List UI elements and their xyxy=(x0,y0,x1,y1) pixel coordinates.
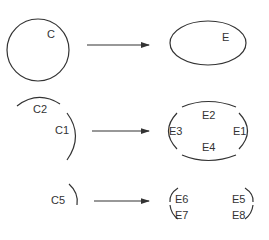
row-3: C5 E6 E5 E7 E8 xyxy=(51,184,253,221)
circle-c xyxy=(7,19,69,81)
label-e5: E5 xyxy=(232,193,245,205)
arc-c5 xyxy=(69,184,77,205)
label-c5: C5 xyxy=(51,194,65,206)
label-e2: E2 xyxy=(202,109,215,121)
label-e: E xyxy=(222,31,229,43)
arc-e5 xyxy=(245,188,253,202)
label-c2: C2 xyxy=(33,103,47,115)
label-c1: C1 xyxy=(55,124,69,136)
arc-e4 xyxy=(182,155,236,161)
label-c: C xyxy=(47,28,55,40)
label-e4: E4 xyxy=(202,141,215,153)
label-e3: E3 xyxy=(169,125,182,137)
arc-e2 xyxy=(182,102,236,108)
transform-diagram: C E C2 C1 E2 E3 E1 E4 C5 E6 E5 E7 E8 xyxy=(0,0,269,240)
row-2: C2 C1 E2 E3 E1 E4 xyxy=(17,97,248,160)
label-e8: E8 xyxy=(232,209,245,221)
label-e6: E6 xyxy=(175,193,188,205)
arc-c1 xyxy=(67,113,76,160)
label-e7: E7 xyxy=(175,209,188,221)
arc-e8 xyxy=(245,205,253,219)
label-e1: E1 xyxy=(233,125,246,137)
row-1: C E xyxy=(7,19,246,81)
ellipse-e xyxy=(170,21,246,65)
